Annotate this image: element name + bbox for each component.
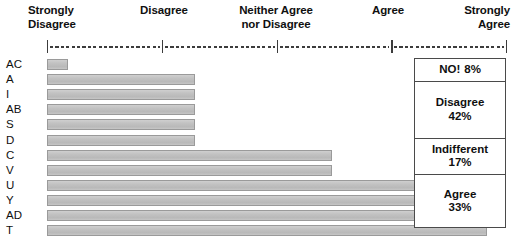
summary-value: 17% <box>448 156 471 170</box>
axis-tick <box>391 40 392 53</box>
scale-label-neither-agree-nor-disagree: Neither Agreenor Disagree <box>222 4 330 31</box>
summary-label: Indifferent <box>432 143 488 157</box>
row-label-v: V <box>0 163 36 178</box>
summary-cell-disagree: Disagree42% <box>415 82 505 138</box>
row-label-i: I <box>0 87 36 102</box>
chart-axis <box>47 40 506 54</box>
scale-label-line2: Disagree <box>28 18 76 30</box>
row-label-ad: AD <box>0 208 36 223</box>
scale-label-strongly-agree: StronglyAgree <box>464 4 510 31</box>
summary-cell-indifferent: Indifferent17% <box>415 139 505 176</box>
scale-label-line1: Disagree <box>140 4 188 16</box>
bar-ab <box>47 104 195 115</box>
summary-value: 33% <box>448 201 471 215</box>
summary-label: Disagree <box>436 96 485 110</box>
scale-label-strongly-disagree: StronglyDisagree <box>28 4 76 31</box>
scale-label-line1: Agree <box>372 4 404 16</box>
axis-dashed-segment <box>394 46 504 48</box>
row-label-s: S <box>0 117 36 132</box>
scale-label-line1: Neither Agree <box>239 4 313 16</box>
axis-tick <box>277 40 278 53</box>
bar-v <box>47 165 332 176</box>
axis-dashed-segment <box>165 46 275 48</box>
row-label-ac: AC <box>0 57 36 72</box>
row-label-t: T <box>0 223 36 238</box>
axis-dashed-segment <box>280 46 390 48</box>
bar-d <box>47 135 195 146</box>
summary-label: NO! <box>439 63 460 77</box>
summary-value: 8% <box>464 63 481 77</box>
scale-label-line1: Strongly <box>28 4 74 16</box>
axis-tick <box>47 40 48 53</box>
summary-value: 42% <box>448 110 471 124</box>
scale-label-line2: nor Disagree <box>241 18 310 30</box>
bar-c <box>47 150 332 161</box>
summary-cell-agree: Agree33% <box>415 175 505 227</box>
bar-a <box>47 74 195 85</box>
axis-tick <box>162 40 163 53</box>
bar-ac <box>47 59 68 70</box>
row-label-a: A <box>0 72 36 87</box>
row-label-ab: AB <box>0 102 36 117</box>
scale-label-disagree: Disagree <box>128 4 200 18</box>
summary-label: Agree <box>444 188 477 202</box>
row-label-u: U <box>0 178 36 193</box>
scale-label-agree: Agree <box>358 4 418 18</box>
row-label-y: Y <box>0 193 36 208</box>
summary-legend-box: NO!8%Disagree42%Indifferent17%Agree33% <box>414 58 506 228</box>
likert-bar-chart: StronglyDisagree Disagree Neither Agreen… <box>0 0 523 245</box>
summary-cell-no: NO!8% <box>415 59 505 82</box>
row-label-c: C <box>0 148 36 163</box>
axis-dashed-segment <box>50 46 160 48</box>
row-label-d: D <box>0 133 36 148</box>
bar-i <box>47 89 195 100</box>
scale-label-line2: Agree <box>478 18 510 30</box>
bar-s <box>47 119 195 130</box>
axis-tick <box>506 40 507 53</box>
scale-label-line1: Strongly <box>464 4 510 16</box>
